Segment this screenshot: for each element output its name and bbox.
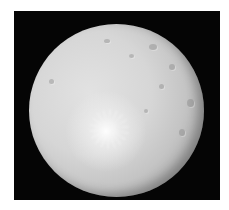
crater <box>149 44 157 50</box>
bright-ray-crater <box>89 109 129 149</box>
crater <box>159 84 164 89</box>
crater <box>187 99 194 107</box>
crater <box>169 64 175 70</box>
crater <box>49 79 54 84</box>
space-background <box>14 11 220 200</box>
crater <box>144 109 148 113</box>
moon <box>29 24 204 197</box>
crater <box>179 129 185 136</box>
crater <box>129 54 134 58</box>
crater <box>104 39 110 43</box>
